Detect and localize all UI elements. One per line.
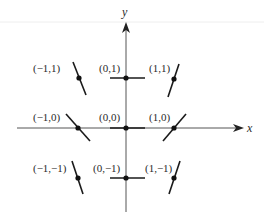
point-label: (1,0) — [149, 111, 170, 124]
point-group-1-neg1: (1,−1) — [145, 161, 180, 194]
grid-point — [75, 175, 80, 180]
point-label: (1,1) — [149, 62, 170, 75]
point-group-neg1-0: (−1,0) — [33, 111, 90, 141]
axes: x y — [17, 5, 253, 212]
point-group-0-neg1: (0,−1) — [93, 162, 145, 181]
grid-point — [123, 175, 128, 180]
grid-point — [171, 175, 176, 180]
grid-point — [171, 125, 176, 130]
point-label: (0,−1) — [93, 162, 121, 175]
point-label: (0,0) — [99, 111, 120, 124]
point-label: (1,−1) — [145, 162, 173, 175]
grid-point — [76, 75, 81, 80]
point-label: (0,1) — [99, 62, 120, 75]
point-group-neg1-neg1: (−1,−1) — [33, 161, 83, 194]
x-axis-label: x — [246, 121, 253, 135]
y-axis-label: y — [121, 5, 128, 19]
point-group-neg1-1: (−1,1) — [33, 62, 86, 95]
grid-point — [123, 125, 128, 130]
grid-point — [75, 125, 80, 130]
point-label: (−1,0) — [33, 111, 61, 124]
point-group-0-1: (0,1) — [99, 62, 145, 81]
point-group-1-1: (1,1) — [149, 62, 179, 97]
point-label: (−1,1) — [33, 62, 61, 75]
point-group-1-0: (1,0) — [149, 111, 186, 141]
point-label: (−1,−1) — [33, 162, 67, 175]
grid-point — [171, 76, 176, 81]
grid-point — [123, 75, 128, 80]
slope-field-diagram: x y (−1,1) (0,1) (1,1) (−1,0) (0,0) (1,0… — [0, 0, 264, 218]
